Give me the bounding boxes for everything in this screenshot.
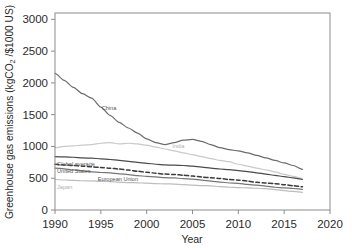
y-tick-label: 1500: [22, 109, 48, 121]
y-tick-label: 3000: [22, 13, 48, 25]
x-tick-label: 1990: [42, 218, 68, 230]
series-label-united-states: United States: [57, 168, 91, 174]
emissions-line-chart: ChinaIndiaGlobal averageUnited StatesEur…: [0, 0, 352, 252]
y-tick-label: 1000: [22, 140, 48, 152]
y-axis-title-main: Greenhouse gas emissions (kgCO: [4, 63, 15, 219]
y-tick-label: 2000: [22, 77, 48, 89]
y-axis-title-tail: /$1000 US): [4, 5, 15, 59]
series-label-european-union: European Union: [98, 176, 138, 182]
y-tick-label: 2500: [22, 45, 48, 57]
x-tick-label: 2015: [271, 218, 297, 230]
x-axis-title: Year: [181, 233, 203, 245]
plot-area-background: [55, 13, 330, 210]
x-tick-label: 2020: [317, 218, 343, 230]
chart-figure: ChinaIndiaGlobal averageUnited StatesEur…: [0, 0, 352, 252]
x-tick-label: 2000: [134, 218, 160, 230]
series-label-india: India: [172, 143, 185, 149]
series-label-china: China: [102, 105, 118, 111]
x-tick-label: 2005: [180, 218, 206, 230]
series-label-global-average: Global average: [57, 161, 95, 167]
y-tick-label: 500: [29, 172, 48, 184]
series-label-japan: Japan: [57, 184, 72, 190]
x-tick-label: 2010: [226, 218, 252, 230]
y-tick-label: 0: [42, 204, 48, 216]
x-tick-label: 1995: [88, 218, 114, 230]
